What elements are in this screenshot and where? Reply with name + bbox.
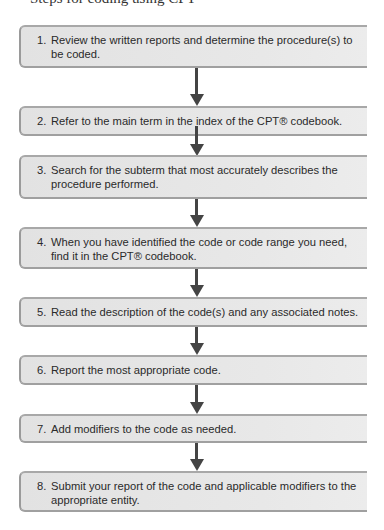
step-text: Report the most appropriate code. bbox=[51, 364, 221, 376]
down-arrow-icon bbox=[190, 327, 204, 355]
step-number: 1. bbox=[37, 33, 46, 47]
down-arrow-icon bbox=[190, 385, 204, 414]
step-text: Read the description of the code(s) and … bbox=[51, 306, 358, 318]
step-box-7: 7. Add modifiers to the code as needed. bbox=[19, 414, 367, 443]
step-box-4: 4. When you have identified the code or … bbox=[19, 227, 367, 269]
step-box-8: 8. Submit your report of the code and ap… bbox=[19, 471, 367, 512]
step-box-6: 6. Report the most appropriate code. bbox=[19, 355, 367, 385]
down-arrow-icon bbox=[190, 443, 204, 471]
step-text: Search for the subterm that most accurat… bbox=[51, 164, 338, 190]
down-arrow-icon bbox=[190, 68, 204, 106]
down-arrow-icon bbox=[190, 199, 204, 227]
step-number: 6. bbox=[37, 363, 46, 377]
step-box-3: 3. Search for the subterm that most accu… bbox=[19, 155, 367, 199]
step-text: Submit your report of the code and appli… bbox=[51, 480, 356, 506]
step-box-1: 1. Review the written reports and determ… bbox=[19, 25, 367, 68]
step-number: 8. bbox=[37, 479, 46, 493]
step-number: 3. bbox=[37, 163, 46, 177]
step-box-5: 5. Read the description of the code(s) a… bbox=[19, 297, 367, 327]
down-arrow-icon bbox=[190, 126, 204, 155]
step-text: When you have identified the code or cod… bbox=[51, 236, 347, 262]
step-number: 4. bbox=[37, 235, 46, 249]
down-arrow-icon bbox=[190, 269, 204, 297]
step-number: 2. bbox=[37, 114, 46, 128]
step-number: 5. bbox=[37, 305, 46, 319]
step-number: 7. bbox=[37, 422, 46, 436]
step-text: Add modifiers to the code as needed. bbox=[51, 423, 236, 435]
cut-off-heading: Steps for coding using CPT bbox=[30, 0, 196, 7]
step-text: Review the written reports and determine… bbox=[51, 34, 353, 60]
